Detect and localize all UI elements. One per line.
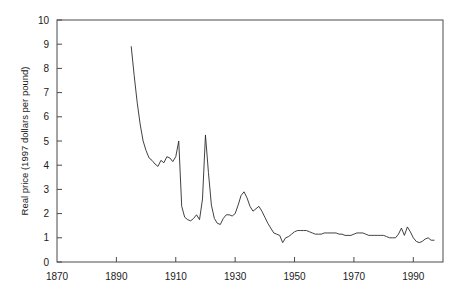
- x-axis-tick-labels: 1870189019101930195019701990: [46, 271, 425, 282]
- y-axis-label-text: Real price (1997 dollars per pound): [19, 67, 30, 216]
- data-series-group: [131, 47, 434, 243]
- x-tick-label: 1990: [402, 271, 425, 282]
- y-tick-label: 4: [43, 160, 49, 171]
- y-tick-label: 8: [43, 63, 49, 74]
- y-axis-ticks: [57, 20, 62, 262]
- x-tick-label: 1930: [224, 271, 247, 282]
- plot-frame: [57, 20, 443, 262]
- y-tick-label: 2: [43, 208, 49, 219]
- y-tick-label: 6: [43, 111, 49, 122]
- x-tick-label: 1910: [165, 271, 188, 282]
- y-tick-label: 3: [43, 184, 49, 195]
- y-tick-label: 1: [43, 232, 49, 243]
- y-tick-label: 10: [38, 15, 50, 26]
- y-tick-label: 5: [43, 136, 49, 147]
- x-axis-ticks: [116, 257, 413, 262]
- x-tick-label: 1870: [46, 271, 69, 282]
- chart-figure: 012345678910 187018901910193019501970199…: [0, 0, 465, 300]
- y-tick-label: 9: [43, 39, 49, 50]
- x-tick-label: 1970: [343, 271, 366, 282]
- y-axis-tick-labels: 012345678910: [38, 15, 50, 268]
- y-tick-label: 7: [43, 87, 49, 98]
- y-tick-label: 0: [43, 257, 49, 268]
- x-tick-label: 1890: [105, 271, 128, 282]
- y-axis-title: Real price (1997 dollars per pound): [19, 67, 30, 216]
- line-chart: 012345678910 187018901910193019501970199…: [0, 0, 465, 300]
- data-line-real-price: [131, 47, 434, 243]
- x-tick-label: 1950: [283, 271, 306, 282]
